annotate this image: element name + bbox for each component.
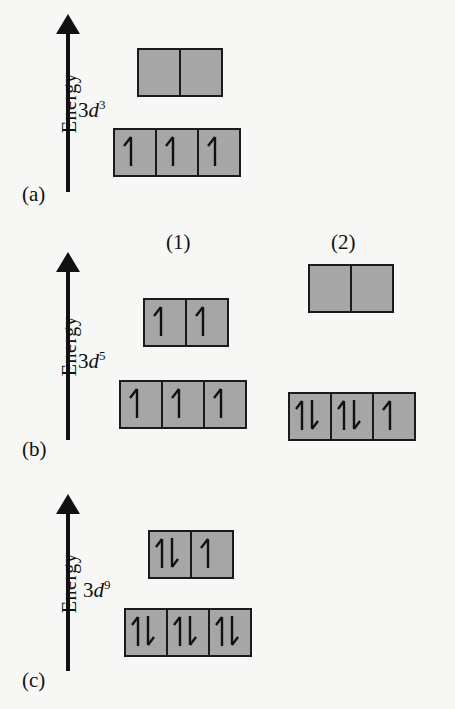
orbital-label-3d5: 3d5 bbox=[78, 348, 106, 374]
orbital-cell[interactable] bbox=[143, 298, 187, 347]
orbital-prefix: 3 bbox=[83, 578, 94, 602]
spin-up-arrow-icon bbox=[205, 382, 241, 423]
panel-a: Energy 3d3 (a) bbox=[0, 0, 455, 232]
orbital-cell[interactable] bbox=[161, 380, 205, 429]
orbital-cell[interactable] bbox=[185, 298, 229, 347]
orbital-row-eg-col2 bbox=[308, 264, 394, 313]
energy-axis-label: Energy bbox=[58, 291, 81, 401]
orbital-superscript: 3 bbox=[99, 97, 106, 112]
spin-up-arrow-icon bbox=[157, 130, 193, 171]
spin-pair-arrows-icon bbox=[332, 394, 368, 435]
orbital-label-3d3: 3d3 bbox=[78, 97, 106, 123]
orbital-row-eg bbox=[137, 48, 223, 97]
spin-pair-arrows-icon bbox=[150, 532, 186, 573]
spin-pair-arrows-icon bbox=[290, 394, 326, 435]
orbital-row-eg-col1 bbox=[143, 298, 229, 347]
orbital-row-t2g bbox=[113, 128, 241, 177]
orbital-row-t2g bbox=[124, 608, 252, 657]
orbital-cell[interactable] bbox=[166, 608, 210, 657]
spin-up-arrow-icon bbox=[121, 382, 157, 423]
orbital-cell[interactable] bbox=[350, 264, 394, 313]
orbital-prefix: 3 bbox=[78, 98, 89, 122]
spin-pair-arrows-icon bbox=[168, 610, 204, 651]
spin-pair-arrows-icon bbox=[126, 610, 162, 651]
orbital-symbol: d bbox=[94, 578, 105, 602]
energy-axis-c: Energy bbox=[48, 494, 88, 671]
orbital-cell[interactable] bbox=[197, 128, 241, 177]
orbital-cell[interactable] bbox=[124, 608, 168, 657]
spin-up-arrow-icon bbox=[199, 130, 235, 171]
column-header-1: (1) bbox=[166, 230, 191, 255]
orbital-row-eg bbox=[148, 530, 234, 579]
orbital-cell[interactable] bbox=[288, 392, 332, 441]
panel-c: Energy 3d9 bbox=[0, 472, 455, 709]
orbital-cell[interactable] bbox=[137, 48, 181, 97]
panel-letter-b: (b) bbox=[22, 437, 47, 462]
orbital-cell[interactable] bbox=[119, 380, 163, 429]
energy-axis-b: Energy bbox=[48, 252, 88, 440]
spin-up-arrow-icon bbox=[192, 532, 228, 573]
orbital-row-t2g-col1 bbox=[119, 380, 247, 429]
energy-axis-label: Energy bbox=[58, 528, 81, 638]
orbital-label-3d9: 3d9 bbox=[83, 577, 111, 603]
spin-pair-arrows-icon bbox=[210, 610, 246, 651]
spin-up-arrow-icon bbox=[187, 300, 223, 341]
spin-up-arrow-icon bbox=[115, 130, 151, 171]
orbital-cell[interactable] bbox=[330, 392, 374, 441]
orbital-cell[interactable] bbox=[203, 380, 247, 429]
orbital-row-t2g-col2 bbox=[288, 392, 416, 441]
spin-up-arrow-icon bbox=[145, 300, 181, 341]
orbital-cell[interactable] bbox=[372, 392, 416, 441]
orbital-prefix: 3 bbox=[78, 349, 89, 373]
orbital-superscript: 9 bbox=[104, 577, 111, 592]
orbital-symbol: d bbox=[89, 349, 100, 373]
orbital-superscript: 5 bbox=[99, 348, 106, 363]
orbital-cell[interactable] bbox=[148, 530, 192, 579]
panel-letter-c: (c) bbox=[22, 668, 45, 693]
orbital-cell[interactable] bbox=[179, 48, 223, 97]
orbital-cell[interactable] bbox=[113, 128, 157, 177]
spin-up-arrow-icon bbox=[163, 382, 199, 423]
spin-up-arrow-icon bbox=[374, 394, 410, 435]
orbital-cell[interactable] bbox=[308, 264, 352, 313]
panel-b: (1) (2) Energy 3d5 bbox=[0, 232, 455, 472]
column-header-2: (2) bbox=[331, 230, 356, 255]
orbital-symbol: d bbox=[89, 98, 100, 122]
orbital-cell[interactable] bbox=[155, 128, 199, 177]
orbital-cell[interactable] bbox=[208, 608, 252, 657]
orbital-cell[interactable] bbox=[190, 530, 234, 579]
panel-letter-a: (a) bbox=[22, 182, 45, 207]
